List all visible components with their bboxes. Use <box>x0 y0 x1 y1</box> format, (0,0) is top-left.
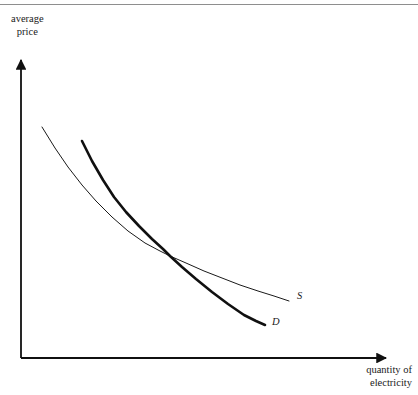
y-axis-label-line-2: price <box>11 26 44 39</box>
x-axis-label: quantity of electricity <box>286 364 412 389</box>
x-axis-label-line-2: electricity <box>286 377 412 390</box>
y-axis-label-line-1: average <box>11 13 44 26</box>
plot-canvas <box>0 0 418 395</box>
supply-curve-label: S <box>297 290 302 301</box>
economics-supply-demand-figure: average price quantity of electricity S … <box>0 0 418 395</box>
y-axis-label: average price <box>11 13 44 38</box>
demand-curve <box>82 141 265 325</box>
demand-curve-label: D <box>272 316 280 327</box>
supply-curve <box>42 127 289 301</box>
x-axis-label-line-1: quantity of <box>286 364 412 377</box>
